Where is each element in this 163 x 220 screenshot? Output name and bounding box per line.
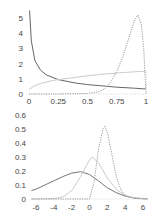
x-tick-label: -4 [50, 203, 58, 212]
y-tick-label: 0.5 [15, 125, 27, 134]
y-tick-label: 0.3 [15, 153, 27, 162]
x-tick-label: 6 [141, 203, 146, 212]
x-tick-label: 1 [144, 97, 149, 106]
series-line [29, 71, 146, 89]
y-tick-label: 0.4 [15, 139, 27, 148]
x-tick-label: 2 [105, 203, 110, 212]
y-tick-label: 5 [19, 14, 24, 23]
y-tick-label: 0 [22, 195, 27, 204]
x-tick-label: 0 [87, 203, 92, 212]
bottom-chart: 00.10.20.30.40.50.6-6-4-20246 [15, 111, 148, 212]
x-tick-label: 0.75 [109, 97, 125, 106]
y-tick-label: 1 [19, 75, 24, 84]
chart-figure: 01234500.250.50.751 00.10.20.30.40.50.6-… [0, 0, 163, 220]
y-tick-label: 0 [19, 90, 24, 99]
x-tick-label: -6 [32, 203, 40, 212]
series-line [30, 10, 146, 89]
top-chart: 01234500.250.50.751 [19, 10, 149, 106]
x-tick-label: 0.5 [82, 97, 94, 106]
series-line [32, 172, 148, 199]
series-line [32, 126, 148, 199]
x-tick-label: 4 [123, 203, 128, 212]
y-tick-label: 0.1 [15, 181, 27, 190]
y-tick-label: 4 [19, 29, 24, 38]
y-tick-label: 0.2 [15, 167, 27, 176]
y-tick-label: 0.6 [15, 111, 27, 120]
series-line [32, 157, 148, 199]
y-tick-label: 3 [19, 44, 24, 53]
x-tick-label: 0 [27, 97, 32, 106]
y-tick-label: 2 [19, 60, 24, 69]
x-tick-label: -2 [68, 203, 76, 212]
x-tick-label: 0.25 [50, 97, 66, 106]
